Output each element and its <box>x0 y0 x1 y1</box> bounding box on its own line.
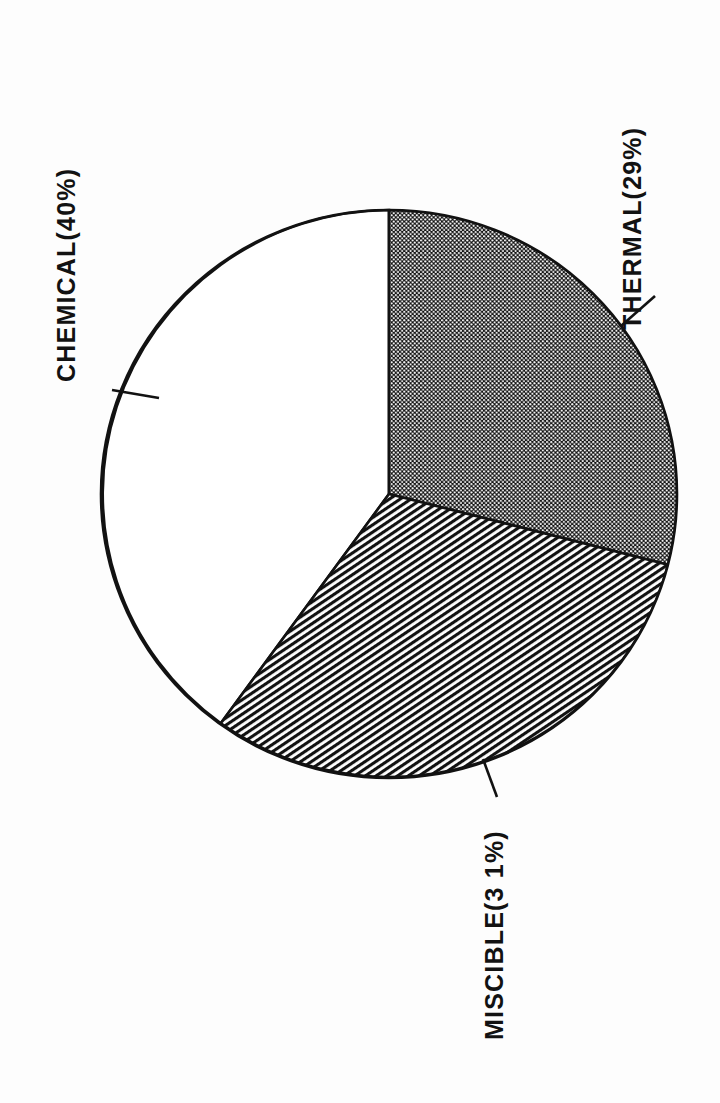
leader-line-miscible <box>483 759 497 797</box>
pie-chart-svg <box>0 0 720 1103</box>
pie-label-miscible: MISCIBLE(3 1%) <box>480 830 509 1040</box>
pie-chart-figure: CHEMICAL(40%) THERMAL(29%) MISCIBLE(3 1%… <box>0 0 720 1103</box>
pie-label-thermal: THERMAL(29%) <box>618 127 647 330</box>
pie-label-chemical: CHEMICAL(40%) <box>52 168 81 382</box>
